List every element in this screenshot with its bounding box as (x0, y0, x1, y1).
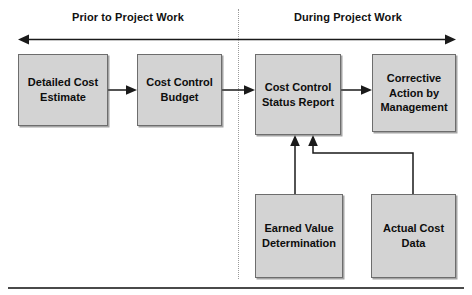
arrowhead-status-to-corrective-icon (361, 85, 372, 95)
box-earned-value-determination: Earned Value Determination (255, 194, 343, 278)
arrowhead-budget-to-status-icon (244, 85, 255, 95)
box-cost-control-budget: Cost Control Budget (137, 54, 222, 126)
box-cost-control-status-report: Cost Control Status Report (255, 54, 341, 135)
box-label-earned-value-determination: Earned Value Determination (262, 221, 336, 250)
box-label-actual-cost-data: Actual Cost Data (383, 221, 444, 250)
box-label-cost-control-budget: Cost Control Budget (146, 75, 213, 104)
box-corrective-action-by-management: Corrective Action by Management (372, 54, 456, 132)
arrowhead-earned-value-to-status-icon (290, 135, 300, 146)
box-actual-cost-data: Actual Cost Data (371, 194, 456, 278)
process-flow-diagram: Prior to Project Work During Project Wor… (0, 0, 472, 295)
bottom-divider-rule (8, 287, 464, 289)
timeline-double-arrow-icon (18, 33, 456, 46)
box-label-cost-control-status-report: Cost Control Status Report (262, 80, 334, 109)
arrowhead-estimate-to-budget-icon (126, 85, 137, 95)
phase-divider-dotted-line (238, 9, 239, 279)
box-label-corrective-action-by-management: Corrective Action by Management (380, 71, 447, 115)
box-label-detailed-cost-estimate: Detailed Cost Estimate (28, 75, 98, 104)
box-detailed-cost-estimate: Detailed Cost Estimate (18, 54, 108, 126)
connector-actual-cost-to-status (313, 145, 413, 194)
phase-label-prior-to-project-work: Prior to Project Work (18, 11, 238, 23)
arrowhead-actual-cost-to-status-icon (308, 135, 318, 146)
phase-label-during-project-work: During Project Work (240, 11, 456, 23)
